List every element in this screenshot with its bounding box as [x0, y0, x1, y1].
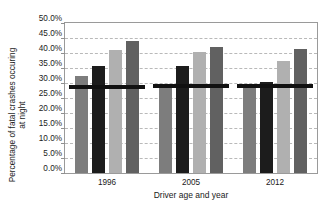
bar: [109, 50, 122, 173]
y-axis-tick: [61, 158, 65, 159]
y-tick-label: 0.0%: [43, 164, 62, 174]
y-tick-label: 30.0%: [39, 74, 62, 84]
y-axis-tick: [61, 83, 65, 84]
x-axis-tick-labels: 199620052012: [64, 177, 318, 189]
y-tick-label: 20.0%: [39, 104, 62, 114]
bar: [159, 85, 172, 174]
x-tick-label: 2012: [266, 177, 284, 188]
bar: [243, 84, 256, 173]
bar: [294, 49, 307, 174]
y-axis-title-line1: Percentage of fatal crashes occuring: [7, 48, 17, 183]
y-tick-label: 5.0%: [43, 149, 62, 159]
y-axis-tick: [61, 68, 65, 69]
y-tick-label: 10.0%: [39, 134, 62, 144]
bar: [126, 41, 139, 173]
x-tick-label: 1996: [98, 177, 116, 188]
y-axis-tick: [61, 173, 65, 174]
bar: [92, 66, 105, 173]
bar: [193, 52, 206, 173]
y-axis-tick: [61, 128, 65, 129]
reference-line: [237, 84, 313, 88]
bar: [210, 47, 223, 173]
y-tick-label: 45.0%: [39, 29, 62, 39]
bar: [75, 76, 88, 173]
bar-chart: Percentage of fatal crashes occuring at …: [0, 0, 335, 221]
x-tick-label: 2005: [182, 177, 200, 188]
y-axis-tick: [61, 143, 65, 144]
y-tick-label: 50.0%: [39, 14, 62, 24]
bar: [277, 61, 290, 173]
bar-group: [243, 23, 307, 173]
y-axis-tick: [61, 23, 65, 24]
plot-area: [64, 22, 318, 174]
bar-group: [75, 23, 139, 173]
y-axis-tick: [61, 53, 65, 54]
y-axis-tick: [61, 38, 65, 39]
reference-line: [69, 85, 145, 89]
y-tick-label: 40.0%: [39, 44, 62, 54]
x-axis-title: Driver age and year: [64, 190, 318, 201]
y-axis-tick: [61, 98, 65, 99]
y-tick-label: 25.0%: [39, 89, 62, 99]
reference-line: [153, 84, 229, 88]
y-tick-label: 15.0%: [39, 119, 62, 129]
y-tick-label: 35.0%: [39, 59, 62, 69]
y-axis-tick: [61, 113, 65, 114]
bar: [260, 82, 273, 174]
bar-group: [159, 23, 223, 173]
y-axis-tick-labels: 50.0%45.0%40.0%35.0%30.0%25.0%20.0%15.0%…: [22, 18, 62, 178]
bar: [176, 66, 189, 173]
